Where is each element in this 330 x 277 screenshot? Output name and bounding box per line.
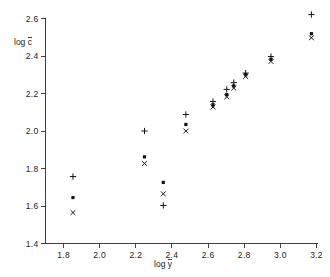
- y-tick-label: 1.8: [26, 164, 39, 174]
- data-point-dot: [143, 155, 146, 158]
- data-point-dot: [184, 123, 187, 126]
- x-tick-label: 2.2: [129, 250, 142, 260]
- data-point-dot: [162, 181, 165, 184]
- y-tick-label: 2.2: [26, 89, 39, 99]
- y-tick-label: 1.6: [26, 201, 39, 211]
- y-tick-label: 2.6: [26, 14, 39, 24]
- x-tick-label: 2.0: [93, 250, 106, 260]
- data-points-group: [70, 11, 315, 215]
- tick-labels-group: 1.41.61.82.02.22.42.61.82.02.22.42.62.83…: [26, 14, 323, 260]
- x-tick-label: 2.6: [202, 250, 215, 260]
- y-tick-label: 1.4: [26, 239, 39, 249]
- x-axis-title: log y: [154, 259, 173, 269]
- y-axis-title-text: log c: [14, 37, 33, 47]
- y-axis-title: log c: [14, 37, 33, 47]
- y-tick-label: 2.0: [26, 126, 39, 136]
- x-tick-label: 3.0: [274, 250, 287, 260]
- x-tick-label: 3.2: [310, 250, 323, 260]
- axes-group: [46, 18, 318, 244]
- x-tick-label: 1.8: [57, 250, 70, 260]
- x-axis-title-text: log y: [154, 259, 173, 269]
- data-point-dot: [310, 32, 313, 35]
- series-cross: [71, 35, 314, 215]
- plot-canvas: 1.41.61.82.02.22.42.61.82.02.22.42.62.83…: [0, 0, 330, 277]
- data-point-dot: [71, 196, 74, 199]
- x-tick-label: 2.8: [238, 250, 251, 260]
- series-plus: [70, 11, 315, 208]
- scatter-plot-figure: 1.41.61.82.02.22.42.61.82.02.22.42.62.83…: [0, 0, 330, 277]
- y-tick-label: 2.4: [26, 51, 39, 61]
- ticks-group: [41, 19, 317, 249]
- series-dot: [71, 32, 313, 199]
